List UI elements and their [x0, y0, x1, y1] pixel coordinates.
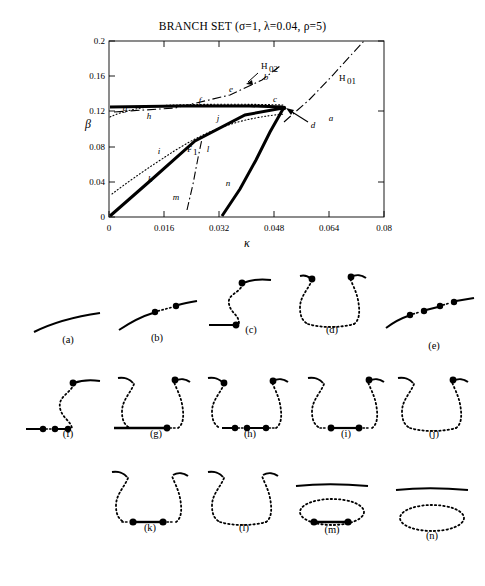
- svg-text:H: H: [261, 61, 268, 71]
- region-f: f: [199, 95, 203, 105]
- panel-c-caption: (c): [231, 324, 271, 335]
- panel-l: (l): [200, 458, 294, 542]
- region-h: h: [147, 111, 152, 121]
- region-e: e: [229, 84, 233, 94]
- svg-text:H: H: [339, 73, 346, 83]
- y-tick-1: 0.04: [89, 177, 105, 187]
- panel-e-caption: (e): [414, 340, 454, 351]
- svg-text:F: F: [187, 144, 192, 154]
- branch-diagram-panels: (a) (b) (c): [0, 262, 485, 586]
- panel-d: (d): [286, 264, 378, 344]
- x-tick-labels: 0 0.016 0.032 0.048 0.064 0.08: [107, 223, 393, 233]
- panel-a-caption: (a): [48, 334, 88, 345]
- cusp-marker: [282, 106, 286, 110]
- panel-n: (n): [390, 474, 485, 544]
- region-n: n: [226, 178, 231, 188]
- svg-text:01: 01: [347, 76, 356, 86]
- region-labels: a b c d e f g h i j k l m n: [123, 72, 334, 202]
- panel-g: (g): [110, 364, 202, 448]
- region-j: j: [216, 113, 220, 123]
- curve-fold-upper: [110, 106, 283, 107]
- x-tick-2: 0.032: [209, 223, 229, 233]
- region-c: c: [273, 94, 277, 104]
- panel-e: (e): [382, 284, 478, 346]
- x-axis-ticks: [109, 41, 384, 217]
- svg-text:1: 1: [193, 147, 198, 157]
- chart-canvas: 0 0.04 0.08 0.12 0.16 0.2 0 0.016 0.032 …: [0, 0, 485, 262]
- y-tick-2: 0.08: [89, 142, 105, 152]
- panel-j-caption: (j): [414, 428, 454, 439]
- panel-m-caption: (m): [312, 524, 352, 535]
- curve-fold-right: [222, 109, 283, 216]
- panel-d-caption: (d): [312, 324, 352, 335]
- panel-k-caption: (k): [130, 522, 170, 533]
- x-tick-0: 0: [107, 223, 112, 233]
- panel-h-caption: (h): [230, 428, 270, 439]
- curve-label-F1: F 1: [187, 144, 198, 157]
- panel-f: (f): [24, 366, 114, 448]
- panel-n-caption: (n): [412, 530, 452, 541]
- x-tick-3: 0.048: [264, 223, 285, 233]
- panel-h: (h): [202, 362, 298, 448]
- region-i: i: [158, 146, 161, 156]
- branch-set-chart: BRANCH SET (σ=1, λ=0.04, ρ=5): [0, 0, 485, 262]
- x-axis-label: κ: [244, 236, 250, 250]
- panel-g-caption: (g): [136, 428, 176, 439]
- panel-m: (m): [290, 468, 390, 542]
- y-tick-5: 0.2: [94, 36, 105, 46]
- y-tick-labels: 0 0.04 0.08 0.12 0.16 0.2: [89, 36, 105, 222]
- panel-f-caption: (f): [48, 428, 88, 439]
- panel-k: (k): [104, 458, 198, 542]
- figure-root: BRANCH SET (σ=1, λ=0.04, ρ=5): [0, 0, 485, 586]
- y-axis-ticks: [109, 41, 384, 217]
- y-tick-3: 0.12: [89, 106, 105, 116]
- region-a: a: [329, 113, 334, 123]
- curve-label-H01: H 01: [339, 73, 356, 86]
- panel-b: (b): [115, 276, 203, 342]
- y-tick-4: 0.16: [89, 71, 105, 81]
- region-m: m: [173, 192, 180, 202]
- x-tick-4: 0.064: [319, 223, 340, 233]
- panel-j: (j): [392, 364, 482, 448]
- plot-frame: [109, 41, 384, 217]
- region-g: g: [123, 103, 128, 113]
- panel-c: (c): [205, 264, 291, 344]
- x-tick-5: 0.08: [376, 223, 392, 233]
- svg-text:02: 02: [269, 64, 278, 74]
- region-l: l: [207, 144, 210, 154]
- region-b: b: [264, 72, 269, 82]
- region-d: d: [311, 120, 316, 130]
- panel-i-caption: (i): [326, 428, 366, 439]
- x-tick-1: 0.016: [154, 223, 175, 233]
- panel-i: (i): [300, 364, 394, 448]
- panel-l-caption: (l): [224, 522, 264, 533]
- y-tick-0: 0: [101, 212, 106, 222]
- curve-fold-left: [110, 108, 283, 216]
- panel-a: (a): [28, 280, 114, 342]
- y-axis-label: β: [84, 117, 91, 131]
- panel-b-caption: (b): [137, 332, 177, 343]
